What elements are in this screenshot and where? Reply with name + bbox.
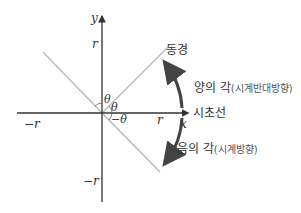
negative-angle-text: 음의 각(시계방향)	[177, 143, 258, 155]
x-axis-label: x	[180, 118, 187, 130]
theta-mid-label: θ	[111, 102, 118, 113]
theta-upper-label: θ	[104, 94, 111, 105]
tick-neg-r-x: −r	[24, 118, 40, 130]
y-axis-label: y	[91, 12, 98, 24]
positive-direction-arc	[166, 64, 182, 108]
positive-angle-text: 양의 각(시계반대방향)	[194, 82, 293, 94]
tick-neg-r-y: −r	[83, 175, 99, 187]
diagram-graphics	[0, 0, 301, 213]
initial-side-label: 시초선	[193, 107, 226, 119]
neg-theta-label: −θ	[111, 114, 127, 125]
angle-diagram: y r −r −r r x θ θ −θ 동경 양의 각(시계반대방향) 시초선…	[0, 0, 301, 213]
angle-arc-upper	[95, 103, 102, 106]
terminal-side-label: 동경	[166, 44, 188, 56]
tick-r-y: r	[92, 38, 98, 50]
tick-r-x: r	[157, 114, 163, 126]
ray-upper-left	[43, 52, 102, 113]
